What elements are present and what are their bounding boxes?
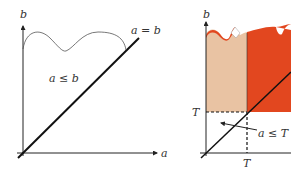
dark-region — [247, 24, 291, 112]
threshold-y-label: T — [192, 106, 201, 119]
b-axis-label: b — [203, 8, 210, 21]
left-panel: b a a = b a ≤ b — [17, 8, 168, 160]
boundary-curve — [23, 32, 126, 51]
threshold-x-label: T — [243, 157, 252, 170]
pointer-arrow — [221, 123, 257, 130]
region-label: a ≤ b — [49, 72, 79, 85]
light-region — [206, 29, 247, 112]
right-panel: b T T a ≤ T — [192, 8, 291, 170]
region-label: a ≤ T — [258, 127, 290, 140]
diagonal-line — [18, 38, 139, 158]
b-axis-label: b — [20, 8, 27, 21]
a-axis-label: a — [161, 147, 168, 160]
diagonal-label: a = b — [131, 24, 161, 37]
diagram-canvas: b a a = b a ≤ b b T T a ≤ T — [0, 0, 291, 173]
